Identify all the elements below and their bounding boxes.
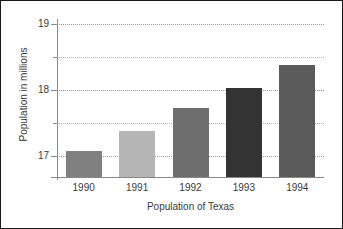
x-tick-label: 1990 xyxy=(57,182,110,194)
y-tick-label: 18 xyxy=(27,85,49,95)
bar-chart-figure: 171819 19901991199219931994 Population o… xyxy=(0,0,343,229)
x-axis-tick-labels: 19901991199219931994 xyxy=(57,182,324,196)
bar-1993 xyxy=(226,88,262,177)
x-tick-label: 1994 xyxy=(271,182,324,194)
y-tick-label: 19 xyxy=(27,19,49,29)
x-axis-line xyxy=(51,177,324,178)
y-axis-title: Population in millions xyxy=(18,20,29,170)
x-tick-label: 1991 xyxy=(110,182,163,194)
bar-1991 xyxy=(119,131,155,177)
x-tick-label: 1993 xyxy=(217,182,270,194)
bar-series xyxy=(57,1,324,177)
bar-1990 xyxy=(66,151,102,177)
y-tick-label: 17 xyxy=(27,151,49,161)
x-tick-label: 1992 xyxy=(164,182,217,194)
bar-1992 xyxy=(173,108,209,177)
x-axis-title: Population of Texas xyxy=(57,201,324,212)
bar-1994 xyxy=(279,65,315,177)
